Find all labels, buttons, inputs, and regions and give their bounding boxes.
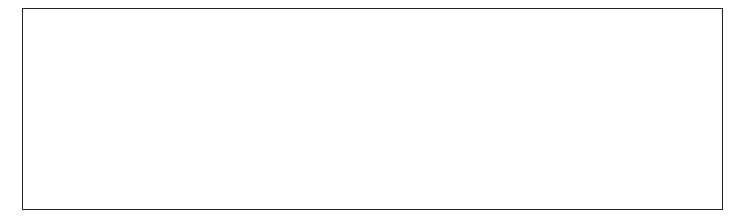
chart-frame	[22, 8, 723, 210]
